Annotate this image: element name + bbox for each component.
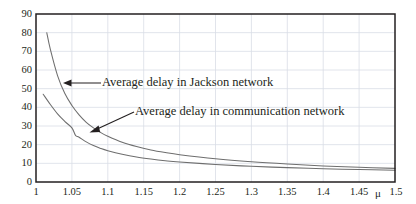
y-tick-label: 0 [10, 177, 32, 188]
x-tick-label: 1.15 [135, 187, 153, 198]
x-tick-label: 1.25 [206, 187, 224, 198]
chart-plot-area [0, 0, 416, 204]
annotation-label-jackson: Average delay in Jackson network [102, 76, 273, 89]
y-tick-label: 60 [10, 65, 32, 76]
x-tick-label: 1.05 [63, 187, 81, 198]
y-tick-label: 40 [10, 102, 32, 113]
y-tick-label: 10 [10, 158, 32, 169]
y-tick-label: 80 [10, 27, 32, 38]
chart-figure: 0 10 20 30 40 50 60 70 80 90 1 1.05 1.1 … [0, 0, 416, 204]
x-tick-label: 1.1 [101, 187, 114, 198]
y-tick-label: 50 [10, 83, 32, 94]
annotation-arrow-jackson [63, 80, 101, 87]
x-tick-label: 1.45 [350, 187, 368, 198]
x-tick-label: 1.5 [389, 187, 402, 198]
y-tick-label: 20 [10, 139, 32, 150]
x-tick-label: 1.4 [317, 187, 330, 198]
x-tick-label: 1.3 [245, 187, 258, 198]
x-axis-label-mu: μ [375, 187, 381, 199]
x-tick-label: 1.2 [173, 187, 186, 198]
x-tick-label: 1.35 [278, 187, 296, 198]
y-tick-label: 90 [10, 9, 32, 20]
y-tick-label: 30 [10, 121, 32, 132]
y-tick-label: 70 [10, 46, 32, 57]
x-tick-label: 1 [33, 187, 38, 198]
annotation-label-communication: Average delay in communication network [135, 105, 344, 118]
vertical-gridlines [72, 14, 359, 182]
annotation-arrow-communication [90, 112, 135, 133]
